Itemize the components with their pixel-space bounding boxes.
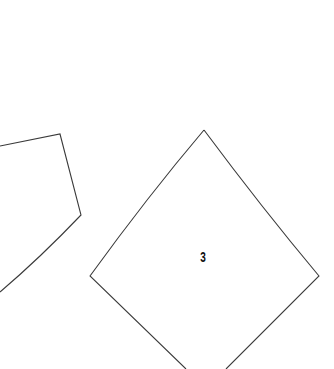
diagram-canvas: 3: [0, 0, 334, 369]
piece-3-label: 3: [200, 250, 206, 264]
pattern-drawing: [0, 0, 334, 369]
left-piece-outline: [0, 134, 81, 292]
